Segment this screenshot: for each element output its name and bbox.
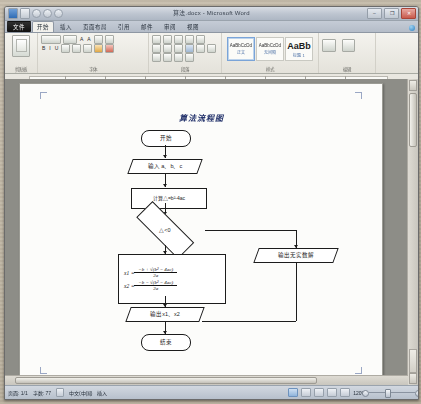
status-insert-mode[interactable]: 插入 [97, 389, 107, 396]
style-tile-heading-1[interactable]: AaBb 标题 1 [285, 37, 313, 61]
paste-button[interactable] [12, 35, 30, 57]
subscript-icon[interactable] [72, 44, 81, 53]
select-icon[interactable] [342, 39, 355, 52]
flow-node-label: △<0 [159, 227, 170, 234]
window-controls[interactable]: – ❐ ✕ [367, 8, 416, 19]
zoom-slider[interactable] [369, 389, 415, 396]
formula-x2: x2 = −b − √(b² − 4ac) 2a [124, 280, 220, 291]
tab-view[interactable]: 视图 [182, 21, 204, 32]
tab-page-layout[interactable]: 页面布局 [78, 21, 112, 32]
draft-view-button[interactable] [340, 388, 350, 397]
flow-node-no-real-solution[interactable]: 输出无实数解 [256, 248, 336, 263]
text-highlight-icon[interactable] [94, 44, 103, 53]
document-page[interactable]: 算法流程图 开始 输入 a、b、c [19, 83, 383, 385]
horizontal-scrollbar[interactable] [5, 375, 408, 385]
flow-node-label: 开始 [160, 135, 172, 142]
paragraph-row-3[interactable] [152, 53, 218, 62]
formula-x1-denominator: 2a [134, 272, 177, 278]
scroll-down-arrow[interactable] [409, 373, 417, 384]
vertical-scrollbar[interactable] [407, 79, 418, 385]
flow-node-decision[interactable]: △<0 [125, 215, 205, 245]
font-row-2[interactable]: B I U [41, 44, 145, 53]
align-center-icon[interactable] [163, 44, 172, 53]
align-left-icon[interactable] [152, 44, 161, 53]
tab-references[interactable]: 引用 [113, 21, 135, 32]
tab-file[interactable]: 文件 [7, 21, 31, 32]
multilevel-list-icon[interactable] [174, 35, 183, 44]
bullets-icon[interactable] [152, 35, 161, 44]
scroll-up-arrow[interactable] [409, 80, 417, 91]
status-page[interactable]: 页面: 1/1 [8, 389, 28, 396]
paragraph-row-2[interactable] [152, 44, 218, 53]
font-row-1[interactable]: A A [41, 35, 145, 44]
flow-node-end[interactable]: 结束 [141, 334, 191, 351]
underline-button[interactable]: U [54, 45, 60, 52]
vertical-scroll-thumb[interactable] [409, 93, 417, 147]
style-tile-normal[interactable]: AaBbCcDd 正文 [227, 37, 255, 61]
tab-review[interactable]: 审阅 [159, 21, 181, 32]
print-layout-view-button[interactable] [288, 388, 298, 397]
flow-node-input[interactable]: 输入 a、b、c [130, 159, 200, 174]
status-right-group[interactable]: 120% [288, 388, 415, 397]
zoom-in-button[interactable] [415, 390, 419, 397]
strikethrough-icon[interactable] [61, 44, 70, 53]
justify-icon[interactable] [185, 44, 194, 53]
proofing-icon[interactable] [56, 388, 64, 397]
clear-formatting-icon[interactable] [94, 35, 103, 44]
numbering-icon[interactable] [163, 35, 172, 44]
group-label-editing: 编辑 [322, 66, 372, 73]
show-marks-icon[interactable] [185, 53, 194, 62]
find-icon[interactable] [322, 39, 336, 52]
flow-node-start[interactable]: 开始 [141, 130, 191, 147]
close-button[interactable]: ✕ [401, 8, 416, 19]
decrease-indent-icon[interactable] [185, 35, 194, 44]
flow-node-formula[interactable]: x1 = −b + √(b² − 4ac) 2a x2 = −b − √(b² [118, 254, 226, 304]
phonetic-guide-icon[interactable] [105, 35, 114, 44]
ribbon-group-font: A A B I U 字体 [38, 33, 149, 73]
status-words[interactable]: 字数: 77 [33, 389, 51, 396]
superscript-icon[interactable] [83, 44, 92, 53]
web-layout-view-button[interactable] [314, 388, 324, 397]
zoom-slider-track[interactable] [369, 392, 415, 393]
tab-home[interactable]: 开始 [32, 21, 54, 32]
horizontal-scroll-thumb[interactable] [15, 377, 317, 384]
page-browse-buttons[interactable] [409, 349, 417, 373]
zoom-slider-handle[interactable] [385, 389, 391, 398]
minimize-button[interactable]: – [367, 8, 382, 19]
italic-button[interactable]: I [48, 45, 51, 52]
tab-insert[interactable]: 插入 [55, 21, 77, 32]
help-icon[interactable] [409, 25, 415, 31]
zoom-out-button[interactable] [362, 390, 369, 397]
style-tile-no-spacing[interactable]: AaBbCcDd 无间隔 [256, 37, 284, 61]
paragraph-row-1[interactable] [152, 35, 218, 44]
flow-node-calc[interactable]: 计算△=b²-4ac [131, 188, 207, 209]
editing-row[interactable] [322, 35, 372, 52]
sort-icon[interactable] [174, 53, 183, 62]
font-color-icon[interactable] [105, 44, 114, 53]
shading-icon[interactable] [152, 53, 161, 62]
bold-button[interactable]: B [41, 45, 46, 52]
style-preview: AaBbCcDd [230, 43, 252, 48]
connector-decision-yes [205, 230, 296, 231]
style-name: 正文 [237, 49, 245, 55]
distribute-icon[interactable] [196, 44, 205, 53]
maximize-button[interactable]: ❐ [384, 8, 399, 19]
ribbon-tab-bar[interactable]: 文件 开始 插入 页面布局 引用 邮件 审阅 视图 [5, 21, 418, 33]
increase-indent-icon[interactable] [196, 35, 205, 44]
tab-mailings[interactable]: 邮件 [136, 21, 158, 32]
grow-font-button[interactable]: A [79, 36, 84, 43]
status-language[interactable]: 中文(中国) [69, 389, 92, 396]
outline-view-button[interactable] [327, 388, 337, 397]
styles-gallery[interactable]: AaBbCcDd 正文 AaBbCcDd 无间隔 AaBb 标题 1 [225, 35, 315, 61]
borders-icon[interactable] [163, 53, 172, 62]
status-bar[interactable]: 页面: 1/1 字数: 77 中文(中国) 插入 120% [5, 385, 418, 399]
document-canvas[interactable]: 算法流程图 开始 输入 a、b、c [5, 79, 418, 385]
font-name-box[interactable] [41, 35, 61, 44]
line-spacing-icon[interactable] [207, 44, 216, 53]
align-right-icon[interactable] [174, 44, 183, 53]
font-size-box[interactable] [63, 35, 77, 44]
full-screen-view-button[interactable] [301, 388, 311, 397]
flow-node-output[interactable]: 输出x1、x2 [128, 307, 202, 322]
ribbon-help-area[interactable] [409, 25, 415, 31]
shrink-font-button[interactable]: A [86, 36, 91, 43]
